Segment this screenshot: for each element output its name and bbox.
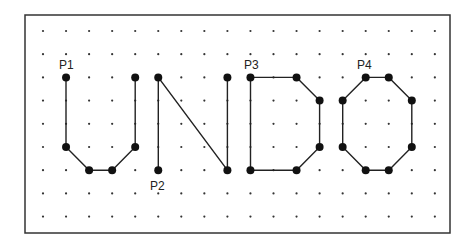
grid-dot [203,30,205,32]
grid-dot [65,192,67,194]
grid-dot [134,30,136,32]
grid-dot [295,216,297,218]
grid-dot [319,30,321,32]
grid-dot [319,53,321,55]
grid-dot [411,216,413,218]
vertex-node [385,73,393,81]
grid-dot [203,192,205,194]
vertex-node [62,143,70,151]
grid-dot [111,76,113,78]
grid-dot [365,30,367,32]
grid-dot [134,169,136,171]
grid-dot [365,146,367,148]
label-p3: P3 [244,59,259,71]
grid-dot [434,76,436,78]
grid-dot [65,169,67,171]
label-p2: P2 [150,180,165,192]
grid-dot [180,30,182,32]
grid-dot [342,53,344,55]
grid-dot [180,100,182,102]
grid-dot [226,30,228,32]
vertex-node [362,73,370,81]
vertex-node [131,143,139,151]
grid-dot [203,123,205,125]
grid-dot [434,146,436,148]
grid-dot [157,53,159,55]
grid-dot [111,123,113,125]
grid-dot [111,146,113,148]
grid-dot [226,192,228,194]
grid-dot [319,169,321,171]
grid-dot [88,192,90,194]
grid-dot [88,76,90,78]
vertex-node [316,143,324,151]
grid-dot [365,123,367,125]
grid-dot [272,192,274,194]
grid-dot [249,53,251,55]
grid-dot [342,216,344,218]
grid-dot [226,216,228,218]
grid-diagram [0,0,474,244]
grid-dot [295,30,297,32]
grid-dot [249,216,251,218]
grid-dot [42,146,44,148]
grid-dot [434,192,436,194]
letters-undo [66,77,412,170]
grid-dot [157,30,159,32]
grid-dot [342,169,344,171]
vertex-node [223,73,231,81]
grid-dot [411,53,413,55]
grid-dot [365,100,367,102]
grid-dot [203,76,205,78]
grid-dot [203,53,205,55]
grid-dot [111,53,113,55]
grid-dot [342,30,344,32]
grid-dot [272,30,274,32]
letter-o [343,77,412,170]
grid-dot [226,53,228,55]
grid-dot [319,192,321,194]
vertex-node [408,143,416,151]
grid-dot [434,100,436,102]
grid-dot [111,30,113,32]
vertex-node [246,73,254,81]
grid-dot [411,169,413,171]
grid-dot [272,146,274,148]
grid-dot [157,216,159,218]
vertex-node [62,73,70,81]
grid-dot [88,146,90,148]
grid-dot [88,30,90,32]
grid-dot [180,76,182,78]
grid-dot [365,192,367,194]
grid-dot [65,53,67,55]
grid-dot [295,100,297,102]
grid-dot [434,53,436,55]
grid-dot [272,100,274,102]
grid-dot [365,216,367,218]
grid-dot [319,216,321,218]
grid-dot [180,169,182,171]
grid-dot [42,192,44,194]
grid-dot [388,192,390,194]
grid-dot [134,192,136,194]
label-p4: P4 [357,59,372,71]
grid-dot [411,192,413,194]
grid-dot [203,169,205,171]
grid-dot [295,192,297,194]
grid-dot [249,30,251,32]
grid-dot [411,30,413,32]
grid-dot [88,100,90,102]
grid-dot [203,100,205,102]
vertex-node [362,166,370,174]
vertex-node [293,166,301,174]
grid-dot [388,30,390,32]
grid-dot [42,169,44,171]
grid-dot [388,146,390,148]
grid-dot [272,123,274,125]
grid-dot [42,216,44,218]
grid-dot [88,53,90,55]
grid-dot [249,192,251,194]
grid-dot [88,216,90,218]
vertex-node [154,166,162,174]
vertex-node [154,73,162,81]
